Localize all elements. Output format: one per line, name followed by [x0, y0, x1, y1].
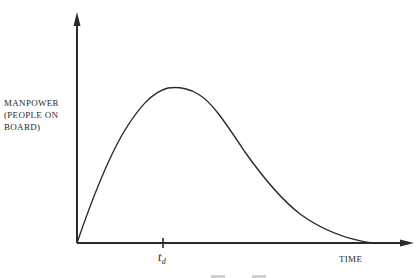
x-axis-arrow-icon	[400, 240, 414, 247]
y-label-line-2: (PEOPLE ON	[4, 109, 59, 121]
y-label-line-1: MANPOWER	[4, 97, 59, 109]
y-axis-arrow-icon	[74, 12, 81, 26]
figure: MANPOWER (PEOPLE ON BOARD) td TIME	[0, 0, 418, 278]
manpower-curve	[77, 87, 372, 243]
x-axis-label: TIME	[339, 253, 362, 265]
y-axis-label: MANPOWER (PEOPLE ON BOARD)	[4, 97, 59, 133]
td-tick-label: td	[158, 251, 166, 268]
y-label-line-3: BOARD)	[4, 121, 59, 133]
chart-canvas	[0, 0, 418, 278]
